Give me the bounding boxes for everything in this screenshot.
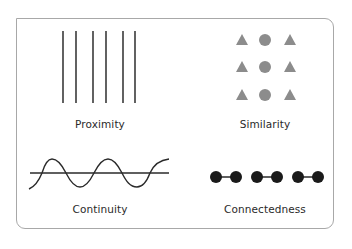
proximity-lines (63, 31, 135, 103)
label-similarity: Similarity (195, 118, 335, 130)
continuity-curves (29, 159, 169, 189)
label-proximity: Proximity (30, 118, 170, 130)
triangle-icon (284, 34, 296, 45)
label-continuity: Continuity (30, 203, 170, 215)
triangle-icon (236, 61, 248, 72)
triangle-icon (236, 89, 248, 100)
triangle-icon (284, 61, 296, 72)
similarity-shapes (236, 34, 296, 101)
circle-icon (259, 89, 271, 101)
circle-icon (259, 34, 271, 46)
connectedness-dots (210, 171, 324, 183)
circle-icon (259, 61, 271, 73)
triangle-icon (236, 34, 248, 45)
triangle-icon (284, 89, 296, 100)
label-connectedness: Connectedness (195, 203, 335, 215)
